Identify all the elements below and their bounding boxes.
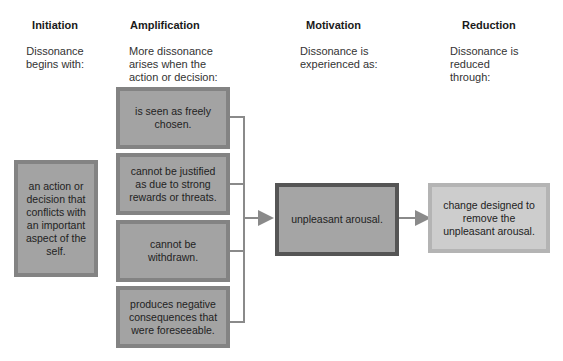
amplification-box-3: cannot be withdrawn. [116, 220, 230, 282]
connector-tick-4 [230, 321, 244, 323]
amplification-box-4: produces negative consequences that were… [116, 286, 230, 348]
motivation-box: unpleasant arousal. [275, 183, 399, 256]
amplification-text-2: cannot be justified as due to strong rew… [124, 165, 222, 204]
subtitle-initiation: Dissonance begins with: [22, 45, 88, 71]
subtitle-reduction: Dissonance is reduced through: [450, 45, 530, 84]
subtitle-motivation: Dissonance is experienced as: [300, 45, 380, 71]
reduction-box: change designed to remove the unpleasant… [428, 183, 550, 253]
amplification-text-1: is seen as freely chosen. [124, 105, 222, 131]
connector-tick-1 [230, 116, 244, 118]
header-reduction: Reduction [462, 19, 522, 31]
header-motivation: Motivation [306, 19, 376, 31]
motivation-text: unpleasant arousal. [291, 213, 383, 226]
connector-tick-2 [230, 183, 244, 185]
amplification-box-2: cannot be justified as due to strong rew… [116, 153, 230, 215]
initiation-box: an action or decision that conflicts wit… [14, 160, 98, 277]
header-initiation: Initiation [30, 19, 80, 31]
amplification-text-4: produces negative consequences that were… [124, 298, 222, 337]
initiation-text: an action or decision that conflicts wit… [22, 180, 90, 258]
subtitle-amplification: More dissonance arises when the action o… [129, 45, 229, 84]
header-amplification: Amplification [130, 19, 210, 31]
connector-tick-3 [230, 250, 244, 252]
amplification-box-1: is seen as freely chosen. [116, 87, 230, 149]
amplification-text-3: cannot be withdrawn. [124, 238, 222, 264]
connector-vertical [243, 116, 245, 323]
reduction-text: change designed to remove the unpleasant… [436, 199, 542, 238]
arrow-right-icon [258, 210, 274, 226]
